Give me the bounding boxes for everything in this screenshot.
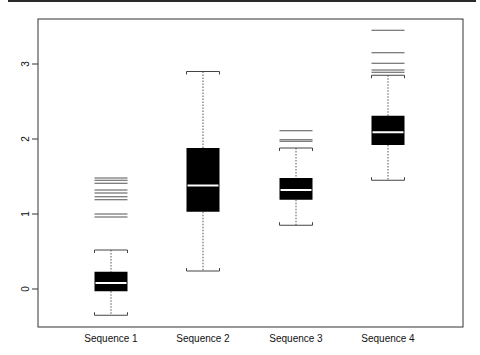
y-tick-label: 0 xyxy=(20,286,31,292)
box-4 xyxy=(372,30,405,180)
y-tick-label: 3 xyxy=(20,61,31,67)
x-category-label: Sequence 4 xyxy=(361,333,415,344)
y-axis: 0123 xyxy=(20,61,38,292)
y-tick-label: 1 xyxy=(20,211,31,217)
iqr-box xyxy=(187,148,220,212)
x-category-label: Sequence 3 xyxy=(269,333,323,344)
boxes xyxy=(95,30,405,315)
iqr-box xyxy=(372,116,405,145)
y-tick-label: 2 xyxy=(20,136,31,142)
iqr-box xyxy=(95,272,128,292)
iqr-box xyxy=(280,178,313,200)
x-axis-labels: Sequence 1Sequence 2Sequence 3Sequence 4 xyxy=(84,333,415,344)
x-category-label: Sequence 1 xyxy=(84,333,138,344)
box-2 xyxy=(187,72,220,272)
box-1 xyxy=(95,178,128,315)
x-category-label: Sequence 2 xyxy=(176,333,230,344)
box-3 xyxy=(280,131,313,226)
boxplot-chart: 0123 Sequence 1Sequence 2Sequence 3Seque… xyxy=(0,0,480,355)
